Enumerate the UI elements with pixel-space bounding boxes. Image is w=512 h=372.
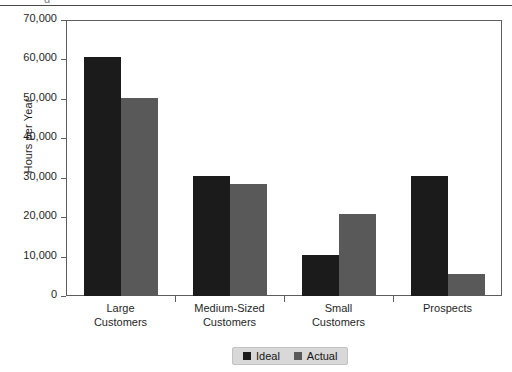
legend-label: Actual	[307, 351, 338, 362]
bar-actual	[448, 274, 485, 296]
y-axis-tick-label: 0	[51, 288, 57, 300]
y-axis-tick-label: 20,000	[23, 209, 57, 221]
bar-actual	[121, 98, 158, 296]
chart-legend: IdealActual	[232, 347, 348, 365]
y-axis-tick-label: 30,000	[23, 170, 57, 182]
bar-actual	[339, 214, 376, 296]
bar-ideal	[193, 176, 230, 296]
bar-ideal	[302, 255, 339, 296]
bar-group	[302, 20, 376, 296]
y-axis-tick-label: 40,000	[23, 130, 57, 142]
bar-ideal	[84, 57, 121, 296]
legend-label: Ideal	[256, 351, 280, 362]
y-axis-tick-label: 10,000	[23, 249, 57, 261]
bar-ideal	[411, 176, 448, 296]
bar-chart-figure: Hours per Year 70,00060,00050,00040,0003…	[0, 0, 512, 372]
y-axis-tick-mark	[61, 296, 66, 297]
bar-group	[84, 20, 158, 296]
bar-group	[411, 20, 485, 296]
legend-entry-actual[interactable]: Actual	[294, 351, 338, 362]
y-axis-tick-label: 50,000	[23, 91, 57, 103]
bar-actual	[230, 184, 267, 296]
legend-swatch-icon	[294, 352, 302, 360]
y-axis-tick-label: 70,000	[23, 12, 57, 24]
bar-group	[193, 20, 267, 296]
x-axis-category-label: Prospects	[368, 301, 512, 315]
x-axis-category-label-line: Prospects	[368, 301, 512, 315]
y-axis-tick-label: 60,000	[23, 51, 57, 63]
legend-swatch-icon	[243, 352, 251, 360]
legend-entry-ideal[interactable]: Ideal	[243, 351, 280, 362]
x-axis-category-label-line: Customers	[259, 315, 419, 329]
